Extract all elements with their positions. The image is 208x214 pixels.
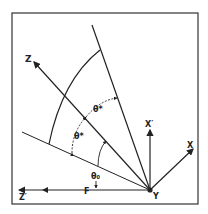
point-f-label: F [84,187,89,196]
x-axis [150,149,193,190]
z-prime-axis-midarrow-icon [42,187,48,193]
diagram-frame [12,13,198,204]
coordinate-diagram: Z Z′ X X′ Y F θ* θ* θ₀ [0,0,208,214]
y-axis-origin-dot [147,187,152,192]
theta-zero-arc [98,141,106,166]
theta-star-upper-label: θ* [93,105,103,114]
theta-zero-label: θ₀ [91,172,100,181]
x-axis-label: X [187,141,194,150]
y-axis-label: Y [152,192,159,201]
x-prime-axis-label: X′ [145,120,153,129]
outer-arc [49,50,100,144]
z-axis-label: Z [25,54,32,64]
theta-star-lower-label: θ* [74,132,84,141]
z-axis [34,62,150,190]
z-prime-axis-label: Z′ [19,193,27,202]
lower-boundary-line [22,132,150,190]
